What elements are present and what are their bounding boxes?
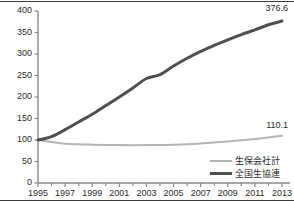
y-tick-label: 0 (27, 177, 32, 187)
y-tick-label: 250 (17, 70, 32, 80)
legend-label: 生保会社計 (235, 154, 280, 167)
y-tick-label: 350 (17, 27, 32, 37)
y-tick-label: 300 (17, 48, 32, 58)
y-tick-label: 150 (17, 113, 32, 123)
y-tick-label: 400 (17, 5, 32, 15)
series-line-1 (38, 21, 282, 140)
series-end-label-0: 110.1 (266, 120, 288, 130)
y-tick-label: 200 (17, 91, 32, 101)
legend-line-icon (210, 160, 232, 162)
series-line-0 (38, 136, 282, 146)
legend-item[interactable]: 全国生協連 (210, 168, 280, 179)
x-tick-label: 2013 (266, 188, 294, 198)
legend-item[interactable]: 生保会社計 (210, 155, 280, 166)
legend-label: 全国生協連 (235, 167, 280, 180)
chart-legend: 生保会社計全国生協連 (210, 155, 280, 179)
y-tick-label: 100 (17, 134, 32, 144)
series-end-label-1: 376.6 (265, 3, 288, 13)
legend-line-icon (210, 172, 232, 175)
chart-figure: 050100150200250300350400 199519971999200… (0, 0, 294, 202)
y-tick-label: 50 (22, 156, 32, 166)
